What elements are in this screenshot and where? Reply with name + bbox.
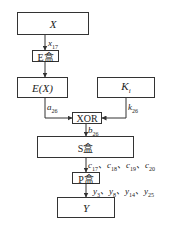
round-key-label: Ki bbox=[121, 80, 130, 95]
xor-label: XOR bbox=[76, 113, 97, 124]
expanded-x-label: E(X) bbox=[32, 82, 53, 94]
s-box: S盒 bbox=[37, 136, 134, 158]
p-box: P盒 bbox=[72, 172, 100, 184]
input-x-label: X bbox=[50, 18, 57, 30]
input-x-box: X bbox=[17, 12, 89, 35]
expanded-x-box: E(X) bbox=[17, 77, 68, 98]
p-box-label: P盒 bbox=[78, 171, 94, 186]
xor-box: XOR bbox=[72, 112, 102, 124]
output-y-label: Y bbox=[83, 202, 89, 214]
edge-label-b26: b26 bbox=[88, 126, 99, 137]
round-key-box: Ki bbox=[97, 77, 155, 98]
edge-label-k26: k26 bbox=[128, 103, 138, 114]
s-box-label: S盒 bbox=[78, 140, 94, 155]
edge-label-y-bits: y3、y8、y14、y25 bbox=[93, 187, 154, 198]
edge-label-a26: a26 bbox=[47, 103, 58, 114]
e-box: E盒 bbox=[32, 50, 59, 62]
edge-label-x17: x17 bbox=[48, 39, 58, 50]
output-y-box: Y bbox=[57, 197, 115, 218]
edge-label-c-bits: c17、c18、c19、c20 bbox=[88, 161, 155, 172]
e-box-label: E盒 bbox=[37, 49, 53, 64]
